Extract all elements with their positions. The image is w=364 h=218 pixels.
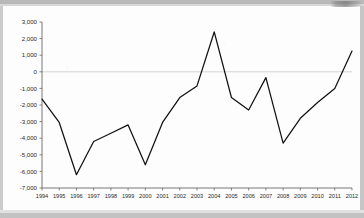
x-tick-label: 2007 xyxy=(260,193,272,199)
y-tick-label: 3,000 xyxy=(22,18,38,25)
x-tick-label: 1997 xyxy=(87,193,99,199)
data-series-line xyxy=(42,32,352,175)
x-tick-label: 2008 xyxy=(277,193,289,199)
y-tick-label: -2,000 xyxy=(20,101,38,108)
y-tick-label: -4,000 xyxy=(20,134,38,141)
y-axis-tick-labels: 3,0002,0001,0000-1,000-2,000-3,000-4,000… xyxy=(20,18,38,191)
x-tick-label: 2011 xyxy=(329,193,341,199)
x-tick-label: 1998 xyxy=(105,193,117,199)
y-tick-label: -5,000 xyxy=(20,151,38,158)
y-tick-label: 1,000 xyxy=(22,51,38,58)
x-tick-label: 1996 xyxy=(70,193,82,199)
y-tick-label: 0 xyxy=(34,68,38,75)
x-tick-label: 2005 xyxy=(225,193,237,199)
x-tick-label: 2001 xyxy=(156,193,168,199)
x-tick-label: 1999 xyxy=(122,193,134,199)
y-tick-label: -7,000 xyxy=(20,184,38,191)
x-tick-label: 2010 xyxy=(311,193,323,199)
x-tick-label: 2003 xyxy=(191,193,203,199)
x-tick-label: 1994 xyxy=(36,193,48,199)
x-tick-label: 2006 xyxy=(242,193,254,199)
y-tick-label: -6,000 xyxy=(20,168,38,175)
y-tick-label: -3,000 xyxy=(20,118,38,125)
x-axis-tick-labels: 1994199519961997199819992000200120022003… xyxy=(36,193,358,199)
y-tick-label: -1,000 xyxy=(20,85,38,92)
chart-canvas: 3,0002,0001,0000-1,000-2,000-3,000-4,000… xyxy=(0,0,364,218)
x-tick-label: 2004 xyxy=(208,193,220,199)
x-tick-label: 2002 xyxy=(174,193,186,199)
x-tick-label: 1995 xyxy=(53,193,65,199)
x-tick-label: 2009 xyxy=(294,193,306,199)
x-tick-label: 2012 xyxy=(346,193,358,199)
x-tick-label: 2000 xyxy=(139,193,151,199)
line-chart: 3,0002,0001,0000-1,000-2,000-3,000-4,000… xyxy=(0,0,364,218)
y-tick-label: 2,000 xyxy=(22,35,38,42)
